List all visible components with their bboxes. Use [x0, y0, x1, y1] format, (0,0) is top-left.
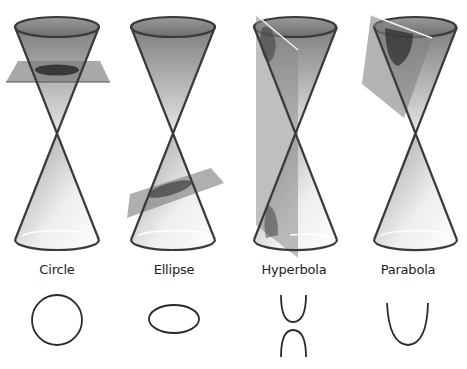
parabola-cone-figure: [362, 15, 457, 250]
circle-curve-icon: [32, 295, 82, 345]
ellipse-curve-icon: [149, 305, 199, 333]
hyperbola-cone-figure: [254, 15, 337, 258]
circle-label: Circle: [7, 262, 107, 277]
parabola-label: Parabola: [358, 262, 458, 277]
hyperbola-label: Hyperbola: [244, 262, 344, 277]
conic-sections-diagram: [0, 0, 467, 369]
circle-cone-figure: [6, 17, 110, 250]
ellipse-label: Ellipse: [124, 262, 224, 277]
hyperbola-curve-icon: [281, 295, 306, 357]
ellipse-cone-figure: [127, 17, 224, 250]
circle-section: [35, 65, 79, 76]
parabola-curve-icon: [387, 303, 428, 345]
